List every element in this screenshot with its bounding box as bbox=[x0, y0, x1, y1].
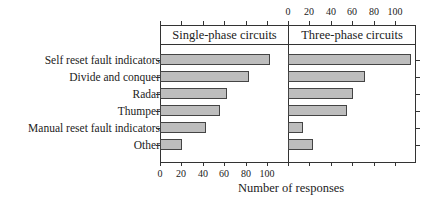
x-tick bbox=[374, 21, 375, 25]
bar-three-phase bbox=[288, 105, 347, 116]
single-phase-header: Single-phase circuits bbox=[160, 25, 289, 45]
x-tick bbox=[352, 162, 353, 166]
bar-three-phase bbox=[288, 71, 365, 82]
bar-single-phase bbox=[160, 105, 220, 116]
x-tick bbox=[395, 21, 396, 25]
x-tick bbox=[160, 162, 161, 166]
y-tick bbox=[416, 60, 420, 61]
x-tick bbox=[203, 162, 204, 166]
x-tick bbox=[267, 21, 268, 25]
x-tick bbox=[352, 21, 353, 25]
x-tick-label: 60 bbox=[212, 168, 236, 180]
x-tick-label-top: 60 bbox=[340, 6, 364, 18]
bar-single-phase bbox=[160, 88, 227, 99]
x-tick bbox=[203, 21, 204, 25]
y-tick bbox=[416, 77, 420, 78]
y-tick bbox=[156, 128, 160, 129]
x-tick-label: 100 bbox=[255, 168, 279, 180]
three-phase-header: Three-phase circuits bbox=[288, 25, 416, 45]
x-tick bbox=[267, 162, 268, 166]
x-tick bbox=[288, 21, 289, 25]
category-label: Thumper bbox=[118, 104, 160, 118]
y-tick bbox=[156, 145, 160, 146]
x-tick-label-top: 20 bbox=[297, 6, 321, 18]
y-tick bbox=[156, 94, 160, 95]
bar-single-phase bbox=[160, 71, 249, 82]
y-tick bbox=[416, 145, 420, 146]
x-tick bbox=[288, 162, 289, 166]
y-tick bbox=[416, 128, 420, 129]
x-tick-label-top: 100 bbox=[383, 6, 407, 18]
x-tick bbox=[309, 21, 310, 25]
bar-three-phase bbox=[288, 88, 353, 99]
x-tick bbox=[160, 21, 161, 25]
bar-single-phase bbox=[160, 139, 182, 150]
y-tick bbox=[156, 111, 160, 112]
y-tick bbox=[416, 94, 420, 95]
x-tick bbox=[309, 162, 310, 166]
bar-single-phase bbox=[160, 54, 270, 65]
x-tick bbox=[331, 162, 332, 166]
x-tick bbox=[224, 162, 225, 166]
y-tick bbox=[416, 111, 420, 112]
category-label: Manual reset fault indicators bbox=[28, 121, 160, 135]
x-axis-title: Number of responses bbox=[238, 181, 344, 196]
bar-three-phase bbox=[288, 139, 313, 150]
y-tick bbox=[156, 77, 160, 78]
x-tick bbox=[246, 162, 247, 166]
x-tick bbox=[246, 21, 247, 25]
x-tick bbox=[181, 21, 182, 25]
x-tick bbox=[181, 162, 182, 166]
x-tick bbox=[374, 162, 375, 166]
y-tick bbox=[156, 60, 160, 61]
x-tick-label: 20 bbox=[169, 168, 193, 180]
category-label: Self reset fault indicators bbox=[45, 53, 160, 67]
bar-three-phase bbox=[288, 122, 303, 133]
bar-single-phase bbox=[160, 122, 206, 133]
bar-three-phase bbox=[288, 54, 411, 65]
x-tick bbox=[395, 162, 396, 166]
category-label: Divide and conquer bbox=[69, 70, 160, 84]
x-tick bbox=[224, 21, 225, 25]
x-tick bbox=[331, 21, 332, 25]
